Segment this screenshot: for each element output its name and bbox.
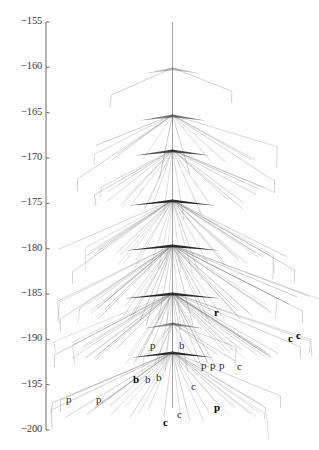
branch-line xyxy=(111,68,172,95)
branch-line xyxy=(116,293,173,349)
branch-line xyxy=(126,150,173,197)
tip-label: c xyxy=(191,381,196,392)
tip-label: c xyxy=(288,333,293,344)
branch-line xyxy=(73,200,173,272)
tip-label: p xyxy=(150,340,156,351)
branch-line xyxy=(100,187,101,197)
y-axis-tick-label: −200 xyxy=(21,423,42,434)
branch-line xyxy=(122,150,173,204)
tip-label: c xyxy=(237,361,242,372)
branch-line xyxy=(173,68,232,91)
branch-line xyxy=(94,195,96,206)
tip-label: b xyxy=(145,374,151,385)
tip-label: r xyxy=(214,307,219,318)
branch-line xyxy=(173,115,278,147)
branch-line xyxy=(173,200,239,258)
figure-canvas: −155−160−165−170−175−180−185−190−195−200… xyxy=(0,0,319,450)
tip-label: c xyxy=(177,409,182,420)
tip-label: c xyxy=(296,330,301,341)
branch-line xyxy=(117,200,173,253)
branch-line xyxy=(85,248,86,271)
branch-line xyxy=(173,200,295,270)
branch-line xyxy=(173,150,257,195)
y-axis xyxy=(46,22,50,430)
tip-label: b xyxy=(179,340,185,351)
branch-line xyxy=(173,200,260,258)
tip-label: p xyxy=(219,360,225,371)
branch-line xyxy=(173,245,242,320)
branch-line xyxy=(136,200,173,260)
branch-line xyxy=(51,410,52,429)
branch-line xyxy=(173,293,265,356)
branch-line xyxy=(96,245,173,301)
branch-line xyxy=(152,150,172,207)
branch-line xyxy=(173,150,184,220)
tip-label: c xyxy=(163,417,168,428)
branch-line xyxy=(163,323,173,365)
branch-line xyxy=(173,150,259,189)
branch-line xyxy=(110,352,173,406)
branch-line xyxy=(73,345,75,364)
tip-label: p xyxy=(214,402,220,413)
y-axis-tick-label: −170 xyxy=(21,151,42,162)
branch-line xyxy=(58,200,173,250)
tip-label: p xyxy=(201,360,207,371)
tip-label: p xyxy=(66,394,72,405)
tree-branches xyxy=(51,22,319,439)
branch-line xyxy=(51,402,53,413)
branch-line xyxy=(111,352,172,414)
y-axis-tick-label: −190 xyxy=(21,332,42,343)
branch-line xyxy=(167,245,173,325)
branch-line xyxy=(98,293,173,354)
branch-line xyxy=(275,298,276,319)
y-axis-tick-label: −160 xyxy=(21,60,42,71)
branch-line xyxy=(158,200,172,270)
branch-line xyxy=(267,415,269,439)
tip-label: p xyxy=(96,394,102,405)
y-axis-tick-label: −195 xyxy=(21,378,42,389)
tip-label: b xyxy=(156,372,162,383)
branch-line xyxy=(173,115,226,162)
branch-line xyxy=(54,293,173,342)
branch-line xyxy=(65,352,173,418)
y-axis-tick-label: −185 xyxy=(21,287,42,298)
branch-line xyxy=(173,150,266,188)
branch-line xyxy=(78,115,173,179)
branch-line xyxy=(311,340,312,356)
branch-line xyxy=(90,245,172,311)
branch-line xyxy=(173,293,258,356)
tip-label: p xyxy=(210,360,216,371)
branch-line xyxy=(309,341,310,353)
y-axis-tick-label: −180 xyxy=(21,242,42,253)
branch-line xyxy=(110,95,112,108)
branch-line xyxy=(173,150,209,201)
tip-label: b xyxy=(133,374,139,385)
branch-line xyxy=(173,150,243,209)
branch-line xyxy=(173,200,264,257)
branch-line xyxy=(54,342,56,352)
branch-line xyxy=(82,293,172,348)
branch-line xyxy=(94,115,172,154)
y-axis-tick-label: −155 xyxy=(21,15,42,26)
y-axis-tick-label: −175 xyxy=(21,196,42,207)
y-axis-tick-label: −165 xyxy=(21,106,42,117)
